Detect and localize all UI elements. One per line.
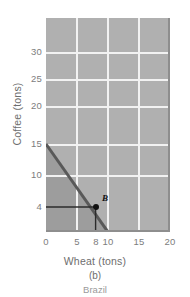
country-caption: Brazil	[0, 284, 190, 295]
xtick-label-15: 15	[130, 237, 148, 247]
plot-area: B	[46, 18, 170, 232]
data-point-b-label: B	[102, 194, 108, 203]
ytick-label-10: 10	[20, 170, 42, 180]
frontier-line	[46, 144, 108, 232]
panel-caption: (b)	[0, 270, 190, 281]
xtick-label-0: 0	[37, 237, 55, 247]
xtick-label-20: 20	[161, 237, 179, 247]
data-point-b-marker	[93, 204, 99, 210]
ytick-label-25: 25	[20, 74, 42, 84]
xtick-label-10: 10	[99, 237, 117, 247]
ytick-label-15: 15	[20, 139, 42, 149]
ytick-label-30: 30	[20, 47, 42, 57]
y-axis-title: Coffee (tons)	[11, 59, 23, 169]
xtick-label-5: 5	[68, 237, 86, 247]
ytick-label-20: 20	[20, 101, 42, 111]
x-axis-title: Wheat (tons)	[0, 255, 190, 267]
ytick-label-4: 4	[20, 202, 42, 212]
ppf-chart-figure: B 30 25 20 15 10 4 0 5 8 10 15 20 Coffee…	[0, 0, 190, 297]
